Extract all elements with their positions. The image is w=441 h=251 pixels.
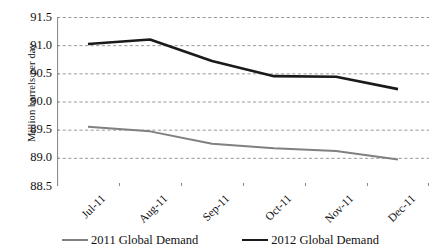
legend-line-swatch [62,239,88,241]
series-line-2011 [88,127,398,160]
chart-figure: Million barrels per day 91.591.090.590.0… [0,0,441,251]
x-tick-label: Sep-11 [200,192,231,223]
x-tick-label: Dec-11 [385,192,417,224]
legend-label: 2011 Global Demand [91,234,198,247]
series-line-2012 [88,40,398,90]
plot-area [57,17,429,186]
x-tick-label: Oct-11 [263,192,294,223]
legend-label: 2012 Global Demand [271,234,379,247]
x-axis-tick-labels: Jul-11Aug-11Sep-11Oct-11Nov-11Dec-11 [57,186,429,232]
y-axis-tick-labels: 91.591.090.590.089.589.088.5 [14,0,52,251]
x-tick-label: Jul-11 [79,192,108,221]
y-tick-label: 89.0 [16,151,52,164]
y-tick-label: 91.0 [16,39,52,52]
x-tick-label: Aug-11 [136,192,169,225]
x-tick-label: Nov-11 [322,192,355,225]
y-tick-label: 90.0 [16,95,52,108]
legend-entry-2011[interactable]: 2011 Global Demand [62,234,198,247]
legend-line-swatch [242,239,268,241]
y-tick-label: 90.5 [16,67,52,80]
chart-legend: 2011 Global Demand2012 Global Demand [0,230,441,250]
y-tick-label: 91.5 [16,11,52,24]
legend-entry-2012[interactable]: 2012 Global Demand [242,234,379,247]
plot-svg [57,17,429,186]
y-tick-label: 88.5 [16,180,52,193]
y-tick-label: 89.5 [16,123,52,136]
